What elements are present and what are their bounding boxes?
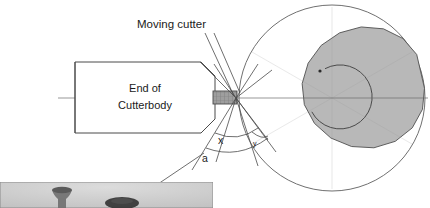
photo-leader-line <box>158 153 204 184</box>
spiral-start-marker <box>318 69 321 72</box>
cutterbody-label-line2: Cutterbody <box>118 99 172 111</box>
angle-label-y: y <box>253 140 257 148</box>
workpiece-photograph <box>0 182 213 208</box>
cutterbody-outline <box>75 62 215 133</box>
photo-dark-part-highlight <box>111 198 133 204</box>
moving-cutter-label: Moving cutter <box>137 18 206 30</box>
workpiece-faceted-polygon <box>297 21 430 155</box>
diagram-canvas: Moving cutter End of Cutterbody a x y <box>0 0 430 208</box>
photo-funnel-rim <box>52 187 72 193</box>
angle-label-x: x <box>218 134 224 146</box>
cutterbody-label-line1: End of <box>129 82 162 94</box>
diagram-svg: Moving cutter End of Cutterbody a x y <box>0 0 430 208</box>
angle-label-a: a <box>202 152 208 164</box>
